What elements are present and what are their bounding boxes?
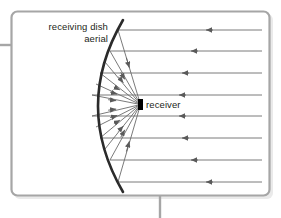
receiver-label: receiver	[146, 99, 181, 111]
figure-root: receiving dishaerial receiver	[0, 0, 281, 218]
receiving-dish-aerial-line2: aerial	[84, 33, 108, 44]
receiver-marker	[138, 99, 143, 110]
receiving-dish-aerial-label: receiving dishaerial	[18, 21, 108, 44]
receiving-dish-aerial-line1: receiving dish	[49, 21, 109, 32]
